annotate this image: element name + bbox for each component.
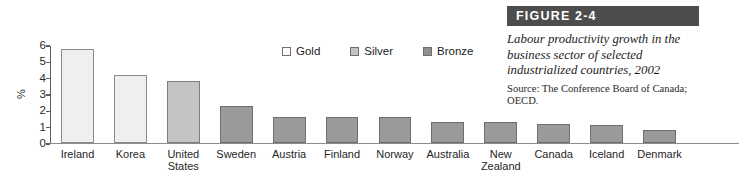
bar[interactable] (431, 122, 464, 143)
bar[interactable] (61, 49, 94, 142)
y-tick-mark (46, 111, 50, 112)
y-tick-label: 3 (32, 89, 46, 101)
bar[interactable] (484, 122, 517, 143)
x-axis-line (50, 143, 739, 144)
bar-slot: Iceland (590, 46, 623, 143)
bar-slot: Austria (273, 46, 306, 143)
bar-slot: Australia (431, 46, 464, 143)
bar[interactable] (643, 130, 676, 143)
y-tick-mark (46, 143, 50, 144)
bar-slot: United States (167, 46, 200, 143)
y-tick-label: 1 (32, 122, 46, 134)
figure-panel: FIGURE 2-4 Labour productivity growth in… (0, 0, 739, 181)
y-tick-mark (46, 78, 50, 79)
bar-slot: New Zealand (484, 46, 517, 143)
y-axis-label: % (15, 89, 27, 99)
bar-chart-plot-area: % 6543210 IrelandKoreaUnited StatesSwede… (50, 46, 686, 144)
bar[interactable] (273, 117, 306, 143)
bar[interactable] (379, 117, 412, 143)
y-tick-mark (46, 94, 50, 95)
bar[interactable] (167, 81, 200, 142)
y-tick-label: 5 (32, 56, 46, 68)
bar[interactable] (537, 124, 570, 143)
bar-slot: Sweden (220, 46, 253, 143)
bar-slot: Finland (326, 46, 359, 143)
bar-slot: Korea (114, 46, 147, 143)
bar-slot: Canada (537, 46, 570, 143)
bar-slot: Ireland (61, 46, 94, 143)
y-tick-label: 4 (32, 73, 46, 85)
bar[interactable] (114, 75, 147, 143)
y-tick-mark (46, 62, 50, 63)
y-tick-mark (46, 45, 50, 46)
y-tick-label: 2 (32, 105, 46, 117)
bar-series: IrelandKoreaUnited StatesSwedenAustriaFi… (51, 46, 686, 143)
bar-slot: Norway (379, 46, 412, 143)
y-tick-mark (46, 127, 50, 128)
y-tick-label: 6 (32, 40, 46, 52)
bar[interactable] (326, 117, 359, 143)
bar[interactable] (220, 106, 253, 143)
bar-slot: Denmark (643, 46, 676, 143)
y-tick-label: 0 (32, 138, 46, 150)
figure-number-banner: FIGURE 2-4 (507, 6, 699, 26)
bar[interactable] (590, 125, 623, 143)
x-axis-category-label: Denmark (627, 148, 692, 161)
